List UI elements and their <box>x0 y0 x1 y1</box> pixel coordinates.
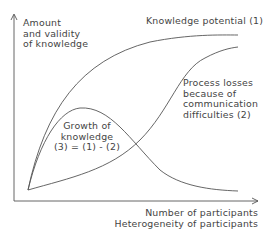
process-losses-label-line: Process losses <box>183 78 258 89</box>
knowledge-potential-label: Knowledge potential (1) <box>146 16 263 27</box>
process-losses-label-line: communication <box>183 99 258 110</box>
y-axis-label-line: Amount <box>23 18 88 29</box>
x-axis-label-line: Heterogeneity of participants <box>115 219 259 230</box>
x-axis-label-line: Number of participants <box>115 208 259 219</box>
x-axis-label: Number of participants Heterogeneity of … <box>115 208 259 229</box>
process-losses-label: Process losses because of communication … <box>183 78 258 120</box>
y-axis-label: Amount and validity of knowledge <box>23 18 88 50</box>
growth-label-line: Growth of <box>52 121 122 132</box>
knowledge-growth-label: Growth of knowledge (3) = (1) - (2) <box>52 121 122 153</box>
y-axis-label-line: of knowledge <box>23 39 88 50</box>
growth-label-line: (3) = (1) - (2) <box>52 142 122 153</box>
process-losses-label-line: difficulties (2) <box>183 110 258 121</box>
